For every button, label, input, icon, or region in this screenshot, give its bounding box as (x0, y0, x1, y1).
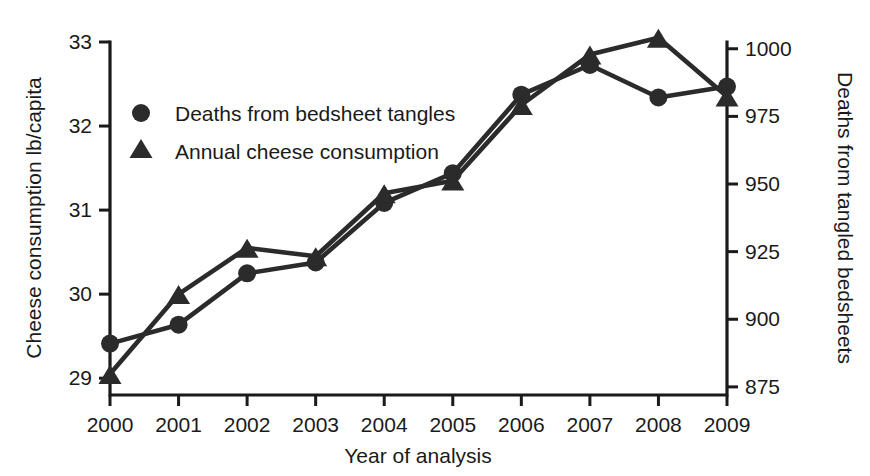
right-ticklabel: 925 (745, 240, 780, 263)
x-ticklabel: 2003 (292, 413, 339, 436)
left-ticklabel: 31 (69, 198, 92, 221)
left-axis-ticks (99, 42, 110, 378)
chart-figure: 2930313233 20002001200220032004200520062… (0, 0, 870, 476)
right-axis-title: Deaths from tangled bedsheets (834, 72, 857, 364)
legend-label-deaths: Deaths from bedsheet tangles (175, 102, 455, 125)
x-ticklabel: 2004 (361, 413, 408, 436)
series-group (99, 29, 739, 384)
x-axis-title: Year of analysis (344, 444, 491, 467)
right-axis-ticklabels: 8759009259509751000 (745, 37, 792, 398)
left-axis-ticklabels: 2930313233 (69, 30, 92, 389)
x-ticklabel: 2007 (567, 413, 614, 436)
x-ticklabel: 2002 (224, 413, 271, 436)
x-axis-ticklabels: 2000200120022003200420052006200720082009 (87, 413, 751, 436)
data-point-triangle (578, 46, 601, 65)
spurious-correlation-line-chart: 2930313233 20002001200220032004200520062… (0, 0, 870, 476)
data-point-circle (238, 264, 256, 282)
left-ticklabel: 30 (69, 282, 92, 305)
right-ticklabel: 975 (745, 104, 780, 127)
x-ticklabel: 2006 (498, 413, 545, 436)
data-point-circle (649, 89, 667, 107)
left-axis-title: Cheese consumption lb/capita (22, 77, 45, 359)
legend-circle-marker-icon (132, 104, 150, 122)
legend-label-cheese: Annual cheese consumption (175, 140, 439, 163)
x-ticklabel: 2000 (87, 413, 134, 436)
right-ticklabel: 900 (745, 307, 780, 330)
data-point-circle (170, 316, 188, 334)
left-ticklabel: 29 (69, 366, 92, 389)
x-ticklabel: 2009 (704, 413, 751, 436)
right-ticklabel: 875 (745, 375, 780, 398)
x-ticklabel: 2008 (635, 413, 682, 436)
data-point-circle (101, 335, 119, 353)
x-ticklabel: 2001 (155, 413, 202, 436)
left-ticklabel: 33 (69, 30, 92, 53)
chart-legend: Deaths from bedsheet tangles Annual chee… (130, 102, 456, 163)
axes-frame (110, 42, 727, 395)
x-axis-ticks (110, 395, 727, 406)
right-ticklabel: 950 (745, 172, 780, 195)
legend-triangle-marker-icon (130, 139, 153, 158)
x-ticklabel: 2005 (429, 413, 476, 436)
left-ticklabel: 32 (69, 114, 92, 137)
right-ticklabel: 1000 (745, 37, 792, 60)
plot-frame-line (110, 42, 727, 395)
